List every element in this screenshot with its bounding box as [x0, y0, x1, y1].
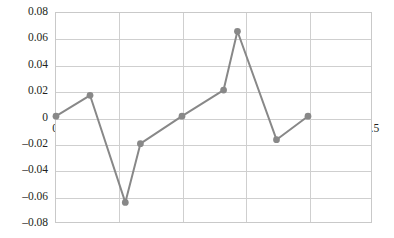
data-point-marker [87, 92, 94, 99]
data-point-marker [305, 113, 312, 120]
data-point-marker [122, 199, 129, 206]
data-point-marker [234, 28, 241, 35]
y-tick-label: –0.02 [0, 138, 48, 150]
y-tick-label: 0.06 [0, 32, 48, 44]
plot-area [55, 12, 372, 223]
line-chart: 0.080.060.040.020–0.02–0.04–0.06–0.08 00… [0, 0, 394, 238]
data-point-marker [273, 136, 280, 143]
y-tick-label: 0.04 [0, 59, 48, 71]
data-point-marker [53, 113, 60, 120]
y-tick-label: 0.08 [0, 6, 48, 18]
data-point-marker [220, 87, 227, 94]
data-point-marker [137, 140, 144, 147]
data-point-marker [179, 113, 186, 120]
y-tick-label: 0.02 [0, 85, 48, 97]
y-tick-label: –0.04 [0, 164, 48, 176]
y-tick-label: –0.08 [0, 217, 48, 229]
series-line-and-markers [56, 13, 371, 222]
y-tick-label: –0.06 [0, 191, 48, 203]
y-tick-label: 0 [0, 112, 48, 124]
